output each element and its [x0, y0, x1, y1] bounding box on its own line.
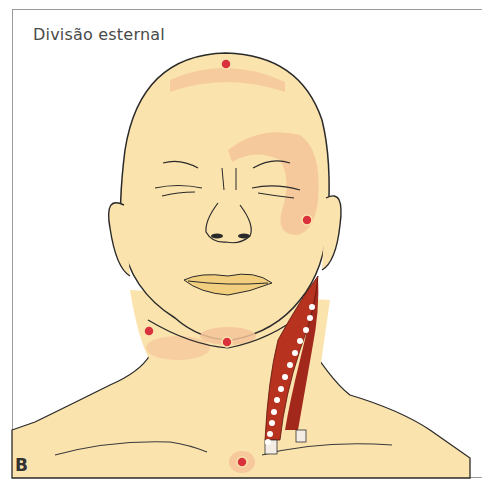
trigger-point-submandibular [144, 326, 154, 336]
trigger-point-chin [222, 337, 232, 347]
figure-title: Divisão esternal [33, 25, 165, 44]
panel-label: B [15, 455, 28, 475]
trigger-point-vertex [221, 59, 231, 69]
pain-zone-submandibular [146, 336, 210, 360]
trigger-point-sternal [237, 457, 247, 467]
trigger-point-cheek [302, 215, 312, 225]
